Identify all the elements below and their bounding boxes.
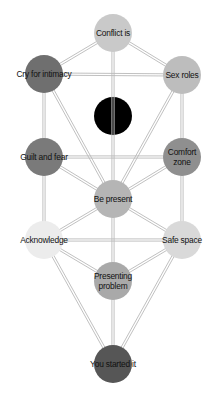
node-presenting (94, 262, 132, 300)
node-started (94, 345, 132, 383)
node-comfort (163, 138, 201, 176)
edge-guilt-comfort (44, 156, 182, 158)
node-cry (25, 55, 63, 93)
node-safe (163, 221, 201, 259)
node-guilt (25, 138, 63, 176)
node-conflict (94, 14, 132, 52)
edge-cry-sex (44, 73, 182, 76)
node-hidden (94, 97, 132, 135)
node-sex (163, 56, 201, 94)
edge-sex-present (112, 74, 183, 199)
edge-safe-started (112, 239, 183, 364)
node-ack (25, 221, 63, 259)
edges-layer (0, 0, 220, 397)
node-present (94, 180, 132, 218)
edge-ack-safe (44, 239, 182, 241)
tree-of-life-diagram: Conflict isCry for intimacySex rolesGuil… (0, 0, 220, 397)
edge-cry-present (43, 73, 114, 199)
edge-ack-started (43, 239, 114, 364)
